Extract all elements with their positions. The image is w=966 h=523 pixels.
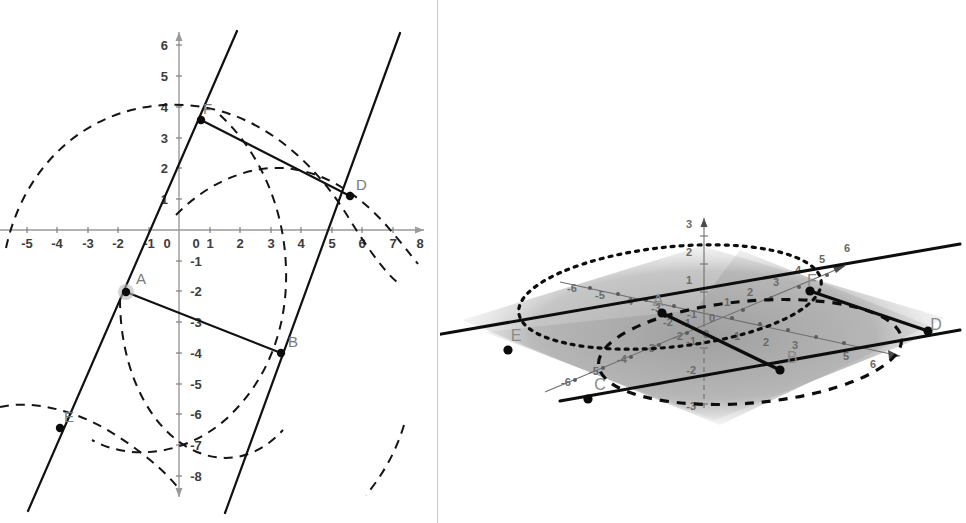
point-E-marker[interactable] (56, 424, 64, 432)
y-axis-arrow-icon (176, 32, 183, 41)
dashed-arc-6 (366, 425, 404, 495)
point-D-marker[interactable] (346, 192, 354, 200)
y-axis-arrow-down-icon (176, 488, 183, 497)
point-3d-C-label: C (594, 376, 606, 393)
y-tick-label: -2 (190, 284, 202, 299)
z3d-tick-label: 1 (686, 274, 692, 286)
point-A-marker[interactable] (122, 288, 130, 296)
z3d-tick-label: 2 (686, 246, 692, 258)
x-tick-label: 1 (206, 236, 213, 251)
point-3d-E-label: E (511, 327, 522, 344)
x-tick-label: -5 (21, 236, 33, 251)
point-B-marker[interactable] (277, 349, 285, 357)
svg-3d: -6 -5 -4 -3 -2 -1 0 1 2 3 5 6 -6 -5 -4 -… (440, 0, 966, 523)
z-axis-3d-arrow-icon (701, 218, 708, 227)
point-A-label: A (136, 270, 146, 287)
y3d-tick-label: -6 (561, 376, 571, 388)
z3d-tick-label-origin: 0 (709, 312, 715, 324)
x-tick-label: -4 (51, 236, 63, 251)
figure-root: -5 -4 -3 -2 -1 0 1 2 3 4 5 6 7 8 6 5 4 3 (0, 0, 966, 523)
point-B-label: B (288, 333, 298, 350)
y-tick-label: 2 (161, 161, 168, 176)
x-axis-labels-2d: -5 -4 -3 -2 -1 0 1 2 3 4 5 6 7 8 (21, 236, 423, 251)
x3d-tick-label: -6 (567, 282, 577, 294)
x-tick-label: 5 (328, 236, 335, 251)
svg-2d: -5 -4 -3 -2 -1 0 1 2 3 4 5 6 7 8 6 5 4 3 (0, 0, 437, 523)
y3d-tick-label: 4 (795, 264, 802, 276)
x-axis-arrow-icon (415, 227, 424, 234)
y3d-tick-label: 6 (844, 242, 850, 254)
x-tick-label: 3 (267, 236, 274, 251)
graphics-view-3d[interactable]: -6 -5 -4 -3 -2 -1 0 1 2 3 5 6 -6 -5 -4 -… (440, 0, 966, 523)
z3d-tick-label: -3 (686, 400, 696, 412)
y-tick-label-origin: 0 (192, 236, 199, 251)
x3d-tick-label: 2 (763, 336, 769, 348)
dashed-arc-3 (92, 115, 286, 452)
y-tick-label: 3 (161, 131, 168, 146)
x-tick-label-origin: 0 (163, 236, 170, 251)
y-tick-label: 6 (161, 38, 168, 53)
point-3d-A-marker[interactable] (657, 308, 666, 317)
x-tick-label: 4 (297, 236, 305, 251)
panel-divider[interactable] (437, 0, 438, 523)
y3d-tick-label: 2 (747, 286, 753, 298)
y3d-tick-label: 5 (819, 253, 825, 265)
y3d-tick-label: -4 (617, 353, 628, 365)
x3d-tick-label: 6 (870, 358, 876, 370)
x-tick-label: 8 (416, 236, 423, 251)
point-3d-B-label: B (787, 349, 798, 366)
y-tick-label: -6 (190, 407, 202, 422)
graphics-view-2d[interactable]: -5 -4 -3 -2 -1 0 1 2 3 4 5 6 7 8 6 5 4 3 (0, 0, 437, 523)
y-tick-label: -4 (190, 346, 202, 361)
point-3d-C-marker[interactable] (583, 394, 592, 403)
solid-lines-2d (28, 31, 400, 513)
point-3d-E-marker[interactable] (503, 345, 512, 354)
y-tick-label: -1 (190, 254, 202, 269)
x-tick-label: 7 (389, 236, 396, 251)
point-D-label: D (356, 176, 367, 193)
dashed-arc-4 (0, 405, 180, 490)
y-tick-label: 4 (161, 100, 169, 115)
x-tick-label: -3 (82, 236, 94, 251)
point-3d-F-label: F (807, 272, 817, 289)
point-3d-D-label: D (930, 316, 942, 333)
segment-A-B (126, 292, 281, 353)
z3d-tick-label: -2 (686, 364, 696, 376)
point-F-label: F (203, 100, 212, 117)
line-through-B-D (225, 33, 400, 513)
dashed-curves-2d (0, 105, 418, 495)
segment-F-D (201, 120, 350, 196)
y-tick-label: -5 (190, 377, 202, 392)
x-tick-label: -2 (112, 236, 124, 251)
y-tick-label: -8 (190, 469, 202, 484)
x-tick-label: 2 (236, 236, 243, 251)
z3d-tick-label: 3 (686, 218, 692, 230)
point-F-marker[interactable] (197, 116, 205, 124)
y3d-tick-label: -2 (673, 330, 683, 342)
points-2d: A B D E F (56, 100, 367, 432)
point-E-label: E (64, 408, 74, 425)
point-3d-B-marker[interactable] (775, 365, 784, 374)
y3d-tick-label: 1 (724, 296, 730, 308)
y-tick-label: 5 (161, 69, 168, 84)
x3d-tick-label: -5 (595, 289, 605, 301)
point-3d-A-label: A (653, 292, 664, 309)
